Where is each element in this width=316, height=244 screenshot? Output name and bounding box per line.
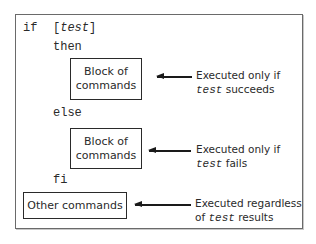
note-line1: Executed only if [196,69,280,81]
note-test-word: test [196,84,222,96]
arrow-left-icon [149,150,191,152]
if-keyword: if [23,21,37,35]
else-block-line2: commands [76,149,137,162]
note-rest: succeeds [222,83,274,95]
other-commands-box: Other commands [23,192,127,219]
note-rest: results [235,211,274,223]
then-keyword: then [53,40,82,54]
note-prefix: of [195,211,208,223]
note-succeeds: Executed only if test succeeds [196,68,280,97]
fi-keyword: fi [53,173,67,187]
test-condition: [test] [53,21,96,35]
note-test-word: test [196,158,222,170]
note-line1: Executed regardless [195,197,302,209]
note-rest: fails [222,157,247,169]
then-block-box: Block ofcommands [70,58,142,100]
else-block-box: Block ofcommands [70,128,142,169]
note-fails: Executed only if test fails [196,142,280,171]
bracket-close: ] [89,21,96,35]
note-test-word: test [208,212,234,224]
test-word: test [60,21,89,35]
else-keyword: else [53,106,82,120]
then-block-line2: commands [76,79,137,92]
arrow-left-icon [135,204,191,206]
note-line1: Executed only if [196,143,280,155]
then-block-line1: Block of [84,65,128,78]
else-block-line1: Block of [84,135,128,148]
arrow-left-icon [157,76,192,78]
note-regardless: Executed regardless of test results [195,196,302,225]
